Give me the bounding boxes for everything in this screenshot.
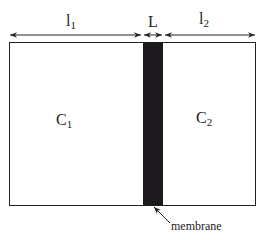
diagram-canvas: [0, 0, 267, 240]
l1-label: l1: [66, 13, 76, 33]
container-box: [10, 43, 256, 206]
l1-sub: 1: [70, 19, 76, 31]
c1-base: C: [56, 111, 67, 128]
c1-label: C1: [56, 112, 72, 132]
c2-base: C: [196, 109, 207, 126]
L-label: L: [148, 14, 158, 30]
membrane-label: membrane: [171, 218, 222, 234]
c2-sub: 2: [207, 116, 213, 128]
c1-sub: 1: [67, 118, 73, 130]
L-base: L: [148, 13, 158, 30]
c2-label: C2: [196, 110, 212, 130]
membrane: [143, 42, 163, 206]
l2-label: l2: [199, 11, 209, 31]
membrane-pointer-arrow: [154, 207, 170, 223]
l2-sub: 2: [203, 17, 209, 29]
